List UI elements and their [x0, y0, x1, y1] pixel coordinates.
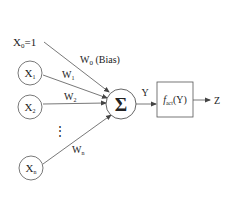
- bias-arrow: [44, 42, 109, 92]
- weight-label-wn: Wn: [72, 144, 84, 156]
- sum-output-label: Y: [141, 87, 148, 98]
- weight-label-w2: W2: [64, 91, 76, 103]
- output-label: Z: [214, 95, 220, 106]
- input-label-x1: X1: [25, 67, 36, 80]
- bias-weight-label: W0 (Bias): [80, 54, 120, 67]
- summation-symbol: Σ: [115, 94, 127, 115]
- input-label-xn: Xn: [26, 162, 37, 175]
- weight-label-w1: W1: [62, 69, 74, 81]
- weight-arrow-n: [43, 115, 111, 164]
- bias-input-label: X0=1: [13, 36, 36, 50]
- weight-arrow-1: [43, 75, 107, 98]
- neuron-diagram: X0=1 W0 (Bias) X1 W1 X2 W2 ⋮ Xn Wn Σ Y f…: [0, 0, 236, 198]
- weight-arrow-2: [43, 103, 106, 104]
- input-label-x2: X2: [25, 101, 36, 114]
- activation-label: fact(Y): [163, 94, 187, 106]
- ellipsis: ⋮: [54, 124, 66, 138]
